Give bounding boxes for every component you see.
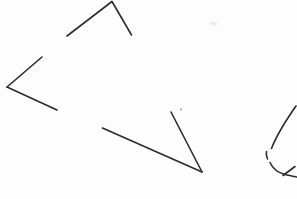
angle-upper-arm (7, 57, 42, 87)
sketch-page (0, 0, 297, 199)
sketch-drawing (0, 0, 297, 199)
curve-upper-segment (272, 106, 297, 149)
check-long-arm (103, 128, 203, 172)
check-steep-arm (171, 112, 202, 172)
peak-right-arm (112, 2, 132, 36)
angle-lower-arm (7, 87, 57, 110)
peak-left-arm (67, 2, 112, 37)
faint-dot-middle (180, 108, 182, 110)
curve-end-tick (283, 167, 295, 176)
curve-dash-segment (266, 152, 267, 160)
faint-smudge-top (210, 22, 218, 26)
